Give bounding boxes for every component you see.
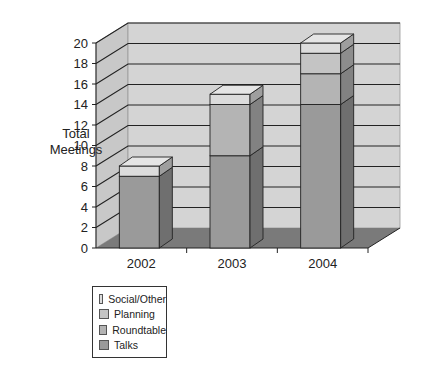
bar-segment-side [250,147,263,248]
y-axis-title-line1: Total [40,126,112,142]
legend-label: Roundtable [112,324,166,336]
y-axis-title-line2: Meetings [40,142,112,158]
bar-segment-side [341,96,354,249]
legend-item-planning: Planning [99,307,166,323]
bar-segment-side [250,96,263,156]
y-tick-label: 0 [81,241,88,256]
legend-label: Planning [114,308,155,320]
legend-swatch [99,340,109,350]
y-tick-label: 8 [81,159,88,174]
y-tick-label: 18 [74,56,88,71]
y-axis-title: Total Meetings [40,126,112,158]
y-tick-label: 4 [81,200,88,215]
bar-segment-social-other [119,166,159,176]
legend-item-talks: Talks [99,338,166,354]
x-tick-label: 2003 [218,256,247,271]
stacked-3d-bar-chart: 02468101214161820200220032004 [0,0,448,376]
bar-segment-social-other [301,43,341,53]
legend-item-roundtable: Roundtable [99,322,166,338]
y-tick-label: 20 [74,36,88,51]
x-tick-label: 2004 [308,256,337,271]
bar-segment-talks [301,105,341,249]
chart-legend: Social/Other Planning Roundtable Talks [92,286,167,358]
legend-swatch [99,325,107,335]
bar-segment-social-other [210,94,250,104]
y-tick-label: 14 [74,97,88,112]
legend-label: Talks [114,339,138,351]
bar-segment-talks [119,176,159,248]
y-tick-label: 16 [74,77,88,92]
y-tick-label: 2 [81,220,88,235]
bar-segment-talks [210,156,250,248]
legend-swatch [99,309,109,319]
legend-swatch [99,294,103,304]
x-tick-label: 2002 [127,256,156,271]
legend-label: Social/Other [108,293,166,305]
legend-item-social-other: Social/Other [99,291,166,307]
bar-segment-side [159,167,172,248]
bar-segment-planning [301,53,341,74]
bar-segment-roundtable [301,74,341,105]
y-tick-label: 6 [81,179,88,194]
bar-segment-roundtable [210,105,250,156]
